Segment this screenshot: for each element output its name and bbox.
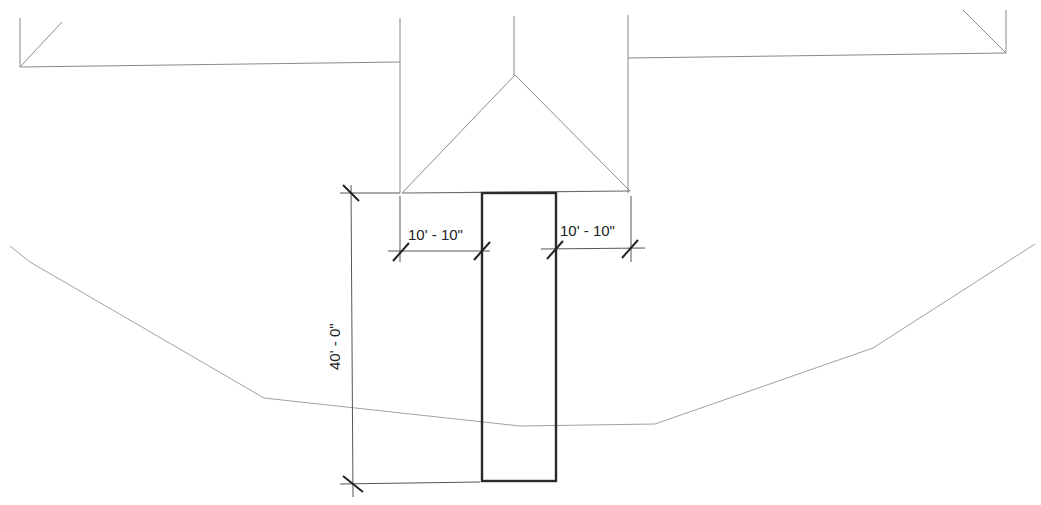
roof-ridge-lines (402, 75, 630, 193)
dimension-right-offset: 10' - 10" (560, 222, 615, 239)
dimension-length: 40' - 0" (326, 323, 343, 370)
building-outline (20, 10, 1006, 193)
left-offset-dimension: 10' - 10" (388, 196, 490, 262)
dimension-left-offset: 10' - 10" (408, 226, 463, 243)
plan-drawing: 40' - 0" 10' - 10" 10' - 10" (0, 0, 1041, 505)
walkway-rectangle (482, 193, 556, 481)
terrain-contour (10, 244, 1035, 426)
